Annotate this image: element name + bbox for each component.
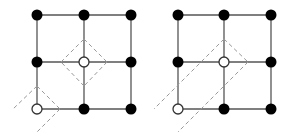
hollow-node [79, 57, 89, 67]
filled-node [219, 10, 230, 21]
filled-node [266, 57, 277, 68]
dashed-line [178, 62, 248, 132]
filled-node [79, 10, 90, 21]
filled-node [32, 57, 43, 68]
hollow-node [219, 57, 229, 67]
filled-node [219, 104, 230, 115]
filled-node [173, 57, 184, 68]
right-lattice [154, 10, 277, 133]
filled-node [32, 10, 43, 21]
lattice-diagram [0, 0, 285, 139]
hollow-node [173, 104, 183, 114]
filled-node [126, 104, 137, 115]
filled-node [79, 104, 90, 115]
filled-node [266, 10, 277, 21]
filled-node [173, 10, 184, 21]
hollow-node [32, 104, 42, 114]
dashed-line [154, 39, 224, 109]
filled-node [266, 104, 277, 115]
filled-node [126, 10, 137, 21]
filled-node [126, 57, 137, 68]
left-lattice [13, 10, 137, 133]
